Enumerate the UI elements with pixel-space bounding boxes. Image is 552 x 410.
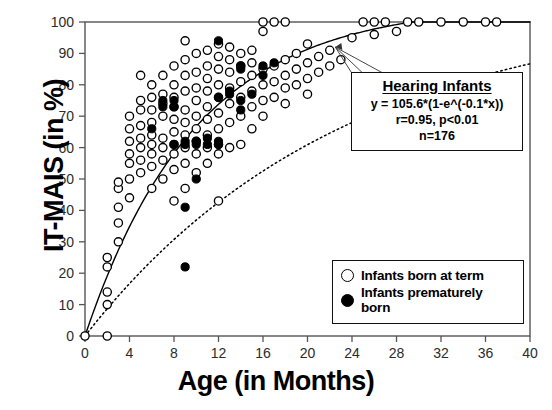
- open-circle-icon: [341, 269, 354, 282]
- svg-text:36: 36: [478, 345, 494, 361]
- y-axis-title: IT-MAIS (in %): [39, 16, 70, 316]
- svg-text:20: 20: [300, 345, 316, 361]
- legend-item-term: Infants born at term: [341, 268, 515, 283]
- chart-legend: Infants born at term Infants prematurely…: [332, 260, 524, 324]
- x-axis-title: Age (in Months): [0, 366, 552, 397]
- svg-text:28: 28: [389, 345, 405, 361]
- legend-label-term: Infants born at term: [361, 268, 484, 283]
- svg-text:0: 0: [81, 345, 89, 361]
- svg-text:4: 4: [126, 345, 134, 361]
- annotation-equation: y = 105.6*(1-e^(-0.1*x)): [354, 97, 520, 113]
- chart-figure: 0102030405060708090100 04812162024283236…: [0, 0, 552, 410]
- filled-circle-icon: [341, 294, 354, 307]
- scatter-plot-canvas: 0102030405060708090100 04812162024283236…: [0, 0, 552, 410]
- legend-label-premature: Infants prematurely born: [361, 285, 515, 315]
- annotation-title: Hearing Infants: [354, 77, 520, 94]
- svg-text:0: 0: [66, 328, 74, 344]
- svg-text:32: 32: [433, 345, 449, 361]
- x-axis-ticks: 0481216202428323640: [81, 336, 538, 361]
- svg-text:24: 24: [344, 345, 360, 361]
- series-infants-prematurely-born: [148, 37, 279, 271]
- legend-item-premature: Infants prematurely born: [341, 285, 515, 315]
- svg-text:8: 8: [170, 345, 178, 361]
- svg-text:16: 16: [255, 345, 271, 361]
- svg-text:12: 12: [211, 345, 227, 361]
- annotation-box: Hearing Infants y = 105.6*(1-e^(-0.1*x))…: [351, 72, 523, 151]
- svg-text:40: 40: [522, 345, 538, 361]
- annotation-stats: r=0.95, p<0.01: [354, 113, 520, 129]
- annotation-n: n=176: [354, 129, 520, 145]
